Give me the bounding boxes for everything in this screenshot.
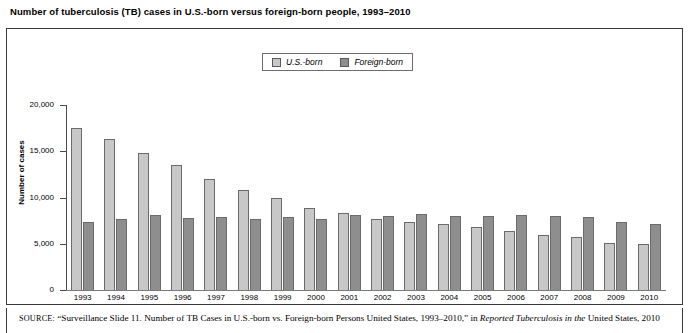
- bar-foreign-born: [283, 217, 294, 290]
- bar-foreign-born: [216, 217, 227, 290]
- bar-us-born: [104, 139, 115, 290]
- x-tick-label: 2005: [466, 293, 499, 302]
- x-tick-label: 2007: [533, 293, 566, 302]
- x-tick-label: 1999: [266, 293, 299, 302]
- bar-foreign-born: [650, 224, 661, 290]
- bar-foreign-born: [316, 219, 327, 290]
- bar-us-born: [371, 219, 382, 290]
- bar-us-born: [138, 153, 149, 290]
- bar-foreign-born: [183, 218, 194, 290]
- bar-foreign-born: [583, 217, 594, 290]
- bar-us-born: [471, 227, 482, 290]
- bar-group: [366, 105, 399, 290]
- bar-us-born: [171, 165, 182, 290]
- bar-group: [299, 105, 332, 290]
- bar-us-born: [304, 208, 315, 290]
- bar-us-born: [238, 190, 249, 290]
- bar-us-born: [271, 198, 282, 290]
- source-label: SOURCE:: [19, 314, 55, 323]
- bar-group: [99, 105, 132, 290]
- bar-group: [333, 105, 366, 290]
- x-tick-label: 1997: [199, 293, 232, 302]
- x-tick-label: 1996: [166, 293, 199, 302]
- x-tick-label: 2009: [599, 293, 632, 302]
- bar-foreign-born: [350, 215, 361, 290]
- bar-group: [233, 105, 266, 290]
- bar-foreign-born: [250, 219, 261, 290]
- bar-foreign-born: [83, 222, 94, 290]
- bar-us-born: [638, 244, 649, 290]
- bar-us-born: [571, 237, 582, 290]
- bar-group: [599, 105, 632, 290]
- x-tick-label: 2010: [633, 293, 666, 302]
- x-tick-label: 2002: [366, 293, 399, 302]
- x-tick-label: 2000: [299, 293, 332, 302]
- bar-groups: [66, 105, 666, 290]
- bar-foreign-born: [116, 219, 127, 290]
- bar-us-born: [604, 243, 615, 290]
- x-tick-label: 2006: [499, 293, 532, 302]
- bar-us-born: [71, 128, 82, 290]
- bar-group: [633, 105, 666, 290]
- x-axis-line: [66, 290, 666, 291]
- source-note-text: SOURCE: “Surveillance Slide 11. Number o…: [7, 308, 682, 325]
- bar-group: [133, 105, 166, 290]
- y-tick-label: 15,000: [8, 146, 54, 155]
- y-tick-label: 5,000: [8, 239, 54, 248]
- y-tick-label: 10,000: [8, 193, 54, 202]
- bar-group: [166, 105, 199, 290]
- bar-foreign-born: [450, 216, 461, 290]
- x-tick-label: 2008: [566, 293, 599, 302]
- x-tick-label: 1995: [133, 293, 166, 302]
- y-tick-label: 0: [8, 285, 54, 294]
- bar-group: [433, 105, 466, 290]
- y-tick-label: 20,000: [8, 100, 54, 109]
- bar-group: [466, 105, 499, 290]
- source-italic1: Reported Tuberculosis in the: [480, 313, 586, 323]
- bar-group: [66, 105, 99, 290]
- source-note: SOURCE: “Surveillance Slide 11. Number o…: [6, 308, 683, 333]
- source-part1: “Surveillance Slide 11. Number of TB Cas…: [55, 313, 480, 323]
- bar-foreign-born: [616, 222, 627, 290]
- x-tick-label: 2004: [433, 293, 466, 302]
- bar-foreign-born: [383, 216, 394, 290]
- bar-us-born: [404, 222, 415, 290]
- bar-us-born: [538, 235, 549, 291]
- bar-foreign-born: [516, 215, 527, 290]
- bar-group: [199, 105, 232, 290]
- bar-group: [266, 105, 299, 290]
- x-tick-label: 2003: [399, 293, 432, 302]
- x-tick-label: 1993: [66, 293, 99, 302]
- x-tick-label: 1994: [99, 293, 132, 302]
- bar-us-born: [204, 179, 215, 290]
- x-tick-label: 1998: [233, 293, 266, 302]
- bar-group: [499, 105, 532, 290]
- plot-wrap: Number of cases 05,00010,00015,00020,000…: [0, 0, 689, 305]
- bar-us-born: [504, 231, 515, 290]
- bar-group: [399, 105, 432, 290]
- y-axis-title: Number of cases: [17, 128, 26, 218]
- bar-foreign-born: [150, 215, 161, 290]
- bar-foreign-born: [550, 216, 561, 290]
- x-axis-labels: 1993199419951996199719981999200020012002…: [66, 293, 666, 302]
- bar-group: [533, 105, 566, 290]
- y-tick-mark: [60, 290, 66, 291]
- figure-page: Number of tuberculosis (TB) cases in U.S…: [0, 0, 689, 333]
- x-tick-label: 2001: [333, 293, 366, 302]
- bar-us-born: [438, 224, 449, 290]
- bar-us-born: [338, 213, 349, 290]
- bar-foreign-born: [416, 214, 427, 290]
- source-part2: United States, 2010: [585, 313, 660, 323]
- bar-group: [566, 105, 599, 290]
- bar-foreign-born: [483, 216, 494, 290]
